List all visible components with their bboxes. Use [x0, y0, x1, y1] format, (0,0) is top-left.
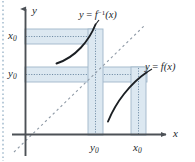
x-axis-tick-y0: y0	[90, 142, 99, 154]
horizontal-band-y0	[25, 67, 147, 82]
figure-canvas	[0, 0, 195, 162]
x-axis-label: x	[173, 128, 178, 139]
inverse-label-eq: =	[84, 9, 95, 20]
x-axis-tick-y0-sub: 0	[95, 146, 99, 155]
function-label-eq: =	[150, 61, 161, 72]
inverse-function-curve-label: y = f−1(x)	[79, 10, 117, 21]
y-axis-tick-x0-sub: 0	[13, 34, 17, 43]
y-axis-label: y	[32, 5, 37, 16]
shaded-guide-bands	[25, 29, 147, 135]
diagonal-reference-line	[14, 26, 144, 152]
function-curve-label: y = f(x)	[145, 62, 175, 73]
x-axis-tick-x0: x0	[133, 142, 142, 154]
y-axis-tick-x0: x0	[8, 30, 17, 42]
vertical-band-x0	[131, 67, 146, 135]
x-axis-tick-x0-sub: 0	[138, 146, 142, 155]
function-label-arg: (x)	[164, 61, 176, 72]
inverse-label-arg: (x)	[105, 9, 117, 20]
inverse-function-figure: y x x0 y0 y0 x0 y = f−1(x) y = f(x)	[0, 0, 195, 162]
y-axis-tick-y0-sub: 0	[13, 72, 17, 81]
y-axis-tick-y0: y0	[8, 68, 17, 80]
vertical-band-y0	[88, 29, 103, 135]
